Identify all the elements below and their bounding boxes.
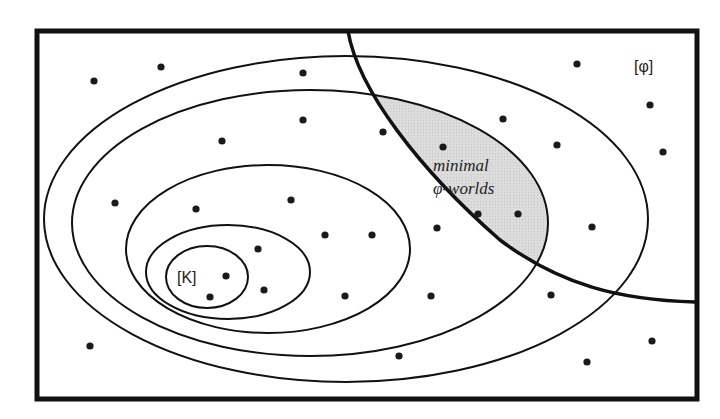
world-dot: [218, 137, 225, 144]
world-dot: [646, 101, 653, 108]
world-dot: [287, 196, 294, 203]
world-dot: [299, 116, 306, 123]
world-dot: [222, 272, 229, 279]
world-dot: [206, 293, 213, 300]
world-dot: [379, 128, 386, 135]
world-dot: [514, 210, 521, 217]
world-dot: [341, 292, 348, 299]
world-dot: [321, 231, 328, 238]
possible-worlds-diagram: [φ] [K] minimal φ-worlds: [0, 0, 720, 419]
k-set-label: [K]: [177, 269, 197, 286]
world-dot: [433, 224, 440, 231]
world-dot: [659, 148, 666, 155]
world-dot: [553, 141, 560, 148]
world-dot: [299, 69, 306, 76]
world-dot: [648, 337, 655, 344]
world-dot: [90, 77, 97, 84]
world-dot: [588, 223, 595, 230]
world-dot: [583, 358, 590, 365]
world-dot: [192, 205, 199, 212]
sphere-third: [126, 165, 410, 333]
world-dot: [260, 286, 267, 293]
minimal-label: minimal: [433, 156, 489, 175]
world-dot: [474, 210, 481, 217]
world-dot: [573, 60, 580, 67]
world-dot: [157, 63, 164, 70]
world-dot: [439, 143, 446, 150]
worlds-group: [86, 60, 666, 365]
world-dot: [368, 231, 375, 238]
sphere-second: [146, 225, 310, 319]
world-dot: [547, 291, 554, 298]
world-dot: [111, 199, 118, 206]
phi-set-label: [φ]: [634, 58, 653, 75]
world-dot: [427, 292, 434, 299]
world-dot: [254, 245, 261, 252]
world-dot: [395, 352, 402, 359]
world-dot: [499, 115, 506, 122]
world-dot: [86, 342, 93, 349]
phi-worlds-label: φ-worlds: [433, 179, 495, 198]
